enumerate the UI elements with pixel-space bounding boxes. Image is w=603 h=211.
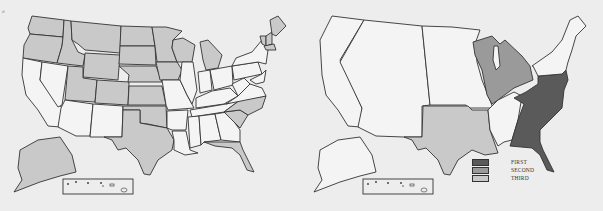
state-arkansas xyxy=(167,110,188,130)
legend-label-first: FIRST xyxy=(511,159,527,165)
state-north-dakota xyxy=(120,26,155,46)
state-montana xyxy=(71,21,121,53)
state-nebraska xyxy=(119,66,162,82)
state-oregon xyxy=(23,34,63,63)
state-kansas xyxy=(128,86,166,105)
right-us-regions-map xyxy=(300,0,603,211)
state-florida xyxy=(204,142,254,172)
state-wisconsin xyxy=(172,38,195,62)
state-arizona xyxy=(58,100,93,136)
state-indiana xyxy=(198,70,212,93)
state-michigan xyxy=(200,40,222,70)
state-south-dakota xyxy=(119,46,156,65)
state-new-hampshire xyxy=(266,32,272,46)
legend-item-first: FIRST xyxy=(472,158,534,166)
hawaii-inset xyxy=(63,179,133,194)
legend-label-second: SECOND xyxy=(511,167,534,173)
state-colorado xyxy=(95,80,129,105)
hawaii-inset-right xyxy=(363,179,433,194)
state-washington xyxy=(28,16,64,37)
legend: FIRST SECOND THIRD xyxy=(472,158,534,182)
legend-item-second: SECOND xyxy=(472,166,534,174)
legend-swatch-second xyxy=(472,167,489,174)
region-northeast xyxy=(532,16,586,76)
legend-swatch-third xyxy=(472,175,489,182)
left-us-states-map xyxy=(0,0,300,211)
legend-item-third: THIRD xyxy=(472,174,534,182)
legend-swatch-first xyxy=(472,159,489,166)
state-ohio xyxy=(210,66,233,90)
region-alaska xyxy=(314,137,376,192)
state-wyoming xyxy=(83,53,120,80)
state-maine xyxy=(270,16,286,36)
legend-label-third: THIRD xyxy=(511,175,529,181)
state-iowa xyxy=(156,62,182,80)
state-new-mexico xyxy=(90,104,123,137)
state-alaska xyxy=(14,137,76,192)
